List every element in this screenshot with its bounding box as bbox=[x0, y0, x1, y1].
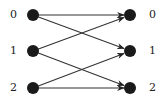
edge-1-0 bbox=[33, 18, 124, 52]
right-node-label-2: 2 bbox=[149, 82, 156, 93]
right-node-0 bbox=[124, 9, 136, 21]
edge-1-2 bbox=[33, 51, 124, 86]
graph-canvas bbox=[0, 0, 166, 103]
right-node-2 bbox=[124, 82, 136, 94]
left-node-0 bbox=[27, 9, 39, 21]
right-node-label-0: 0 bbox=[149, 9, 156, 20]
right-node-1 bbox=[124, 45, 136, 57]
edge-2-1 bbox=[33, 54, 124, 89]
left-node-label-1: 1 bbox=[10, 45, 17, 56]
left-node-1 bbox=[27, 45, 39, 57]
left-node-label-0: 0 bbox=[10, 9, 17, 20]
right-node-label-1: 1 bbox=[149, 45, 156, 56]
edge-0-1 bbox=[33, 15, 124, 49]
left-node-label-2: 2 bbox=[10, 82, 17, 93]
left-node-2 bbox=[27, 82, 39, 94]
